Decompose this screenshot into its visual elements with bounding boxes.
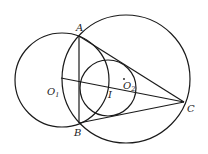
label-A: A [75, 22, 83, 33]
label-B: B [73, 127, 81, 138]
label-C: C [187, 103, 195, 114]
label-I: I [107, 89, 113, 100]
geometry-diagram: A B C I O1 O2 [0, 0, 208, 154]
label-O1: O1 [47, 86, 59, 99]
